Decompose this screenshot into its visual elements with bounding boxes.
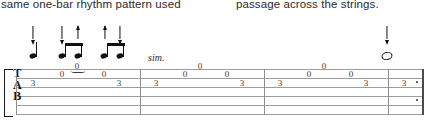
fret-number: 3 <box>364 79 369 88</box>
staff-line-6 <box>16 114 424 115</box>
barline-measure-1-2 <box>140 69 141 115</box>
fret-number: 3 <box>240 79 245 88</box>
staff-line-4 <box>16 96 424 97</box>
prose-column-right: passage across the strings. <box>236 0 379 10</box>
fret-number: 3 <box>402 79 407 88</box>
downstroke-shaft-1 <box>32 26 33 39</box>
fret-number: 0 <box>183 70 188 79</box>
barline-measure-3-4 <box>388 69 389 115</box>
staff-line-5 <box>16 105 424 106</box>
fret-number: 3 <box>117 79 122 88</box>
repeat-dot-upper <box>416 81 418 83</box>
upstroke-head-2 <box>103 25 107 30</box>
fret-number: 3 <box>154 79 159 88</box>
fret-number: 0 <box>322 62 327 71</box>
stem-quarter-1 <box>36 42 37 57</box>
fret-number: 0 <box>225 70 230 79</box>
fret-number: 3 <box>278 79 283 88</box>
beam-group-1 <box>65 43 83 46</box>
repeat-barline-end <box>422 69 424 115</box>
downstroke-head-3 <box>118 40 122 45</box>
fret-number: 0 <box>307 70 312 79</box>
barline-measure-2-3 <box>264 69 265 115</box>
tab-clef: T A B <box>13 68 22 103</box>
notehead-whole-1 <box>381 51 393 61</box>
downstroke-shaft-2 <box>61 26 62 39</box>
staff-bracket <box>4 69 13 117</box>
downstroke-shaft-3 <box>119 26 120 39</box>
tab-clef-letter-b: B <box>13 91 22 103</box>
sim-expression: sim. <box>148 52 164 63</box>
slur-measure-1 <box>71 68 85 73</box>
downstroke-head-1 <box>31 40 35 45</box>
downstroke-shaft-4 <box>386 26 387 39</box>
repeat-dot-lower <box>416 99 418 101</box>
downstroke-head-4 <box>385 40 389 45</box>
downstroke-head-2 <box>60 40 64 45</box>
fret-number: 3 <box>31 79 36 88</box>
guitar-tablature-system: T A B sim. 3 <box>0 24 444 128</box>
fret-number: 0 <box>60 70 65 79</box>
fret-number: 0 <box>349 70 354 79</box>
upstroke-head-1 <box>76 25 80 30</box>
barline-start <box>16 69 17 115</box>
prose-column-left: same one-bar rhythm pattern used <box>1 0 181 10</box>
fret-number: 0 <box>102 70 107 79</box>
fret-number: 0 <box>198 62 203 71</box>
